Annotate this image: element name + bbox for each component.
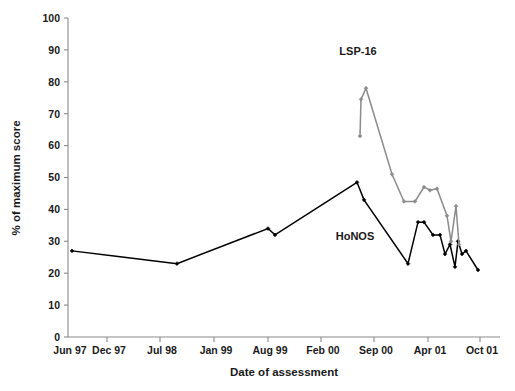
- y-tick-label: 30: [48, 235, 60, 247]
- data-point-marker: [416, 220, 420, 224]
- y-tick-label: 100: [42, 12, 60, 24]
- y-tick-label: 50: [48, 171, 60, 183]
- x-axis-title: Date of assessment: [230, 366, 338, 378]
- series-label-honos: HoNOS: [336, 230, 375, 242]
- series-line: [72, 182, 478, 270]
- data-point-marker: [445, 214, 449, 218]
- data-point-marker: [435, 187, 439, 191]
- x-tick-label: Jan 99: [200, 344, 233, 356]
- x-tick-label: Aug 99: [252, 344, 287, 356]
- series-label-lsp-16: LSP-16: [339, 45, 376, 57]
- data-point-marker: [453, 265, 457, 269]
- line-chart: 0102030405060708090100 Jun 97Dec 97Jul 9…: [0, 0, 515, 391]
- series-lsp-16: [358, 86, 461, 246]
- x-tick-label: Apr 01: [414, 344, 447, 356]
- x-axis: Jun 97Dec 97Jul 98Jan 99Aug 99Feb 00Sep …: [53, 337, 500, 356]
- series-line: [360, 88, 459, 244]
- chart-container: 0102030405060708090100 Jun 97Dec 97Jul 9…: [0, 0, 515, 391]
- x-tick-label: Oct 01: [466, 344, 498, 356]
- data-point-marker: [70, 249, 74, 253]
- y-tick-label: 20: [48, 267, 60, 279]
- x-tick-label: Jul 98: [147, 344, 177, 356]
- x-tick-label: Sep 00: [359, 344, 393, 356]
- y-tick-label: 0: [54, 331, 60, 343]
- data-point-marker: [454, 204, 458, 208]
- series-honos: [70, 180, 480, 272]
- y-tick-label: 90: [48, 44, 60, 56]
- y-tick-label: 10: [48, 299, 60, 311]
- y-axis-title: % of maximum score: [10, 120, 22, 235]
- data-point-marker: [175, 262, 179, 266]
- series-annotations: LSP-16HoNOS: [336, 45, 377, 242]
- data-point-marker: [358, 134, 362, 138]
- x-tick-label: Jun 97: [53, 344, 86, 356]
- y-axis: 0102030405060708090100: [42, 12, 68, 343]
- y-tick-label: 40: [48, 203, 60, 215]
- x-tick-label: Dec 97: [92, 344, 126, 356]
- y-tick-label: 60: [48, 139, 60, 151]
- y-tick-label: 70: [48, 108, 60, 120]
- data-series-group: [70, 86, 480, 272]
- data-point-marker: [438, 233, 442, 237]
- y-tick-label: 80: [48, 76, 60, 88]
- x-tick-label: Feb 00: [306, 344, 339, 356]
